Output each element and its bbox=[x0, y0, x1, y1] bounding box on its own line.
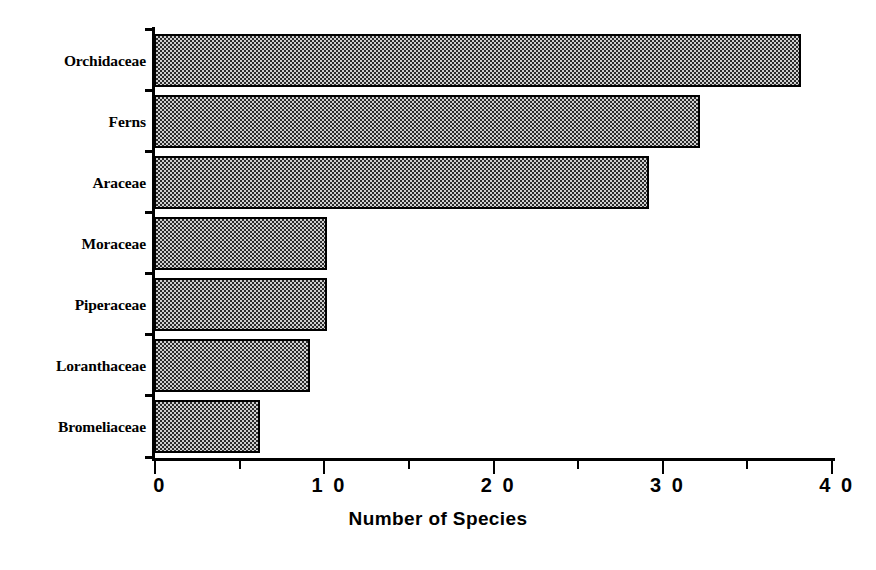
bar-category-label: Piperaceae bbox=[75, 274, 146, 335]
x-axis-major-tick bbox=[493, 461, 495, 474]
bar-category-label: Orchidaceae bbox=[64, 30, 146, 91]
plot-area: Orchidaceae Ferns Araceae Moraceae Piper… bbox=[0, 0, 876, 570]
x-axis-major-tick bbox=[154, 461, 156, 474]
bar-row: Orchidaceae bbox=[0, 30, 876, 91]
bar-orchidaceae bbox=[154, 34, 801, 87]
bar-piperaceae bbox=[154, 278, 327, 331]
bar-category-label: Ferns bbox=[109, 91, 146, 152]
x-axis-title: Number of Species bbox=[0, 508, 876, 530]
x-axis-minor-tick bbox=[577, 461, 579, 469]
x-axis-major-tick bbox=[323, 461, 325, 474]
x-axis-minor-tick bbox=[239, 461, 241, 469]
bar-category-label: Araceae bbox=[92, 152, 146, 213]
bar-category-label: Moraceae bbox=[81, 213, 146, 274]
x-axis-tick-label: 3 0 bbox=[650, 474, 685, 497]
bar-moraceae bbox=[154, 217, 327, 270]
bar-araceae bbox=[154, 156, 649, 209]
bar-ferns bbox=[154, 95, 700, 148]
y-axis-line bbox=[152, 27, 155, 461]
x-axis-tick-label: 0 bbox=[153, 474, 167, 497]
x-axis-tick-label: 1 0 bbox=[312, 474, 347, 497]
x-axis-minor-tick bbox=[408, 461, 410, 469]
x-axis-tick-label: 4 0 bbox=[819, 474, 854, 497]
bars-layer: Orchidaceae Ferns Araceae Moraceae Piper… bbox=[0, 0, 876, 570]
bar-row: Loranthaceae bbox=[0, 335, 876, 396]
bar-loranthaceae bbox=[154, 339, 310, 392]
bar-chart: Orchidaceae Ferns Araceae Moraceae Piper… bbox=[0, 0, 876, 570]
bar-category-label: Bromeliaceae bbox=[58, 396, 146, 457]
bar-bromeliaceae bbox=[154, 400, 260, 453]
bar-row: Piperaceae bbox=[0, 274, 876, 335]
bar-row: Moraceae bbox=[0, 213, 876, 274]
x-axis-minor-tick bbox=[746, 461, 748, 469]
bar-row: Araceae bbox=[0, 152, 876, 213]
bar-row: Ferns bbox=[0, 91, 876, 152]
bar-row: Bromeliaceae bbox=[0, 396, 876, 457]
x-axis-major-tick bbox=[831, 461, 833, 474]
x-axis-major-tick bbox=[662, 461, 664, 474]
bar-category-label: Loranthaceae bbox=[56, 335, 146, 396]
x-axis-tick-label: 2 0 bbox=[481, 474, 516, 497]
